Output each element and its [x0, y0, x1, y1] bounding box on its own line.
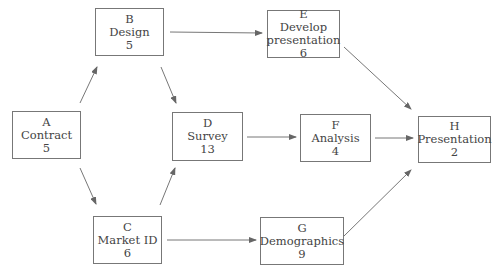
edge-a-c	[80, 168, 96, 204]
node-label: Contract	[21, 129, 72, 142]
edge-b-d	[161, 67, 176, 103]
edge-b-e	[170, 32, 262, 33]
node-id: B	[125, 13, 133, 26]
node-label: Market ID	[98, 234, 158, 247]
node-duration: 6	[124, 247, 131, 260]
node-duration: 4	[332, 145, 339, 158]
node-duration: 6	[300, 47, 307, 60]
node-id: A	[42, 116, 50, 129]
node-duration: 13	[200, 143, 215, 156]
edge-e-h	[344, 47, 411, 109]
node-id: C	[123, 221, 132, 234]
node-duration: 5	[126, 39, 133, 52]
node-f-analysis: F Analysis 4	[300, 114, 371, 162]
node-label: Design	[109, 26, 149, 39]
node-h-presentation: H Presentation 2	[418, 116, 491, 163]
node-label: Demographics	[260, 235, 344, 248]
node-c-market-id: C Market ID 6	[93, 216, 162, 264]
edge-a-b	[80, 67, 97, 103]
node-duration: 2	[451, 146, 458, 159]
node-a-contract: A Contract 5	[12, 111, 81, 159]
node-duration: 9	[298, 248, 305, 261]
node-g-demographics: G Demographics 9	[260, 217, 344, 265]
node-duration: 5	[43, 142, 50, 155]
node-id: G	[297, 222, 306, 235]
node-e-develop-presentation: E Develop presentation 6	[267, 10, 340, 58]
node-b-design: B Design 5	[95, 8, 164, 56]
node-d-survey: D Survey 13	[172, 112, 243, 161]
node-label: Analysis	[311, 132, 359, 145]
node-id: F	[332, 119, 340, 132]
edge-g-h	[343, 170, 411, 237]
edge-c-d	[160, 168, 175, 205]
